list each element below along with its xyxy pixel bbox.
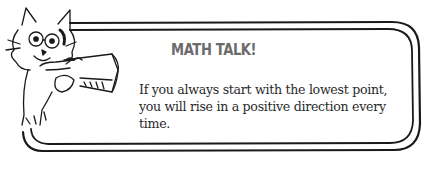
callout-body: If you always start with the lowest poin…: [139, 81, 409, 132]
callout-title: MATH TALK!: [171, 40, 256, 59]
cat-with-megaphone-icon: [0, 0, 140, 135]
